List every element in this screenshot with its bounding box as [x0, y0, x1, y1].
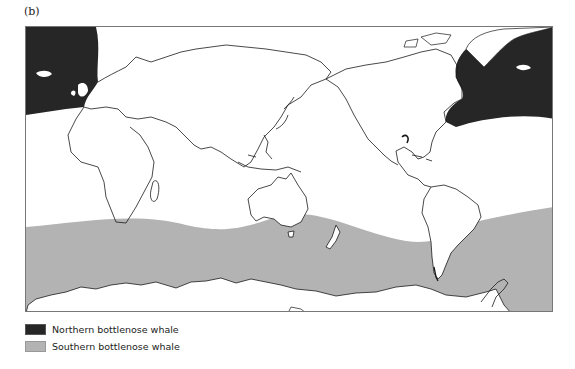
- world-map: [25, 26, 553, 312]
- legend-swatch-northern: [25, 324, 46, 335]
- legend-item-southern: Southern bottlenose whale: [25, 338, 180, 354]
- legend: Northern bottlenose whale Southern bottl…: [25, 321, 180, 355]
- legend-label-northern: Northern bottlenose whale: [52, 324, 179, 335]
- legend-item-northern: Northern bottlenose whale: [25, 321, 180, 337]
- panel-label: (b): [24, 5, 40, 18]
- northern-range-area-west: [26, 27, 98, 115]
- coastline-australia: [248, 173, 308, 227]
- legend-swatch-southern: [25, 341, 46, 352]
- map-svg: [26, 27, 553, 312]
- legend-label-southern: Southern bottlenose whale: [52, 341, 180, 352]
- coastline-north-america: [326, 49, 462, 187]
